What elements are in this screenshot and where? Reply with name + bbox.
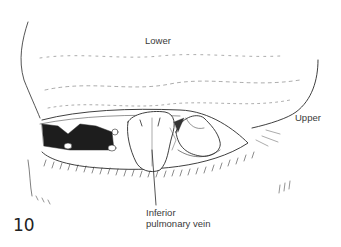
label-ipv-line1: Inferior xyxy=(146,207,210,218)
surgical-illustration: Lower Upper Inferior pulmonary vein 10 xyxy=(0,0,341,247)
label-lower: Lower xyxy=(145,35,171,46)
figure-number: 10 xyxy=(13,215,35,235)
label-inferior-pulmonary-vein: Inferior pulmonary vein xyxy=(146,207,210,229)
label-upper: Upper xyxy=(295,112,321,123)
label-ipv-line2: pulmonary vein xyxy=(146,218,210,229)
